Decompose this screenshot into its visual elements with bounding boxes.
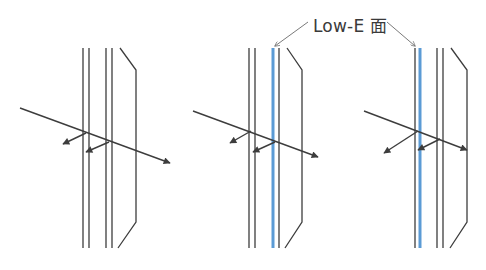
incident-ray-arrow-icon [20, 108, 170, 163]
leader-line [275, 22, 308, 46]
panel-ordinary-double-glazing [20, 48, 170, 248]
reflected-ray-arrow-icon [230, 131, 251, 143]
window-frame [450, 48, 467, 248]
panel-lowe-surface-3 [193, 48, 318, 248]
diagram-canvas: Low-E 面 [0, 0, 486, 270]
lowe-surface-label: Low-E 面 [313, 12, 387, 37]
panels-layer [20, 48, 467, 248]
window-frame [118, 48, 136, 248]
leader-line [387, 22, 415, 46]
reflected-ray-arrow-icon [384, 131, 418, 153]
glazing-diagram [0, 0, 486, 270]
panel-lowe-surface-2 [364, 48, 467, 248]
